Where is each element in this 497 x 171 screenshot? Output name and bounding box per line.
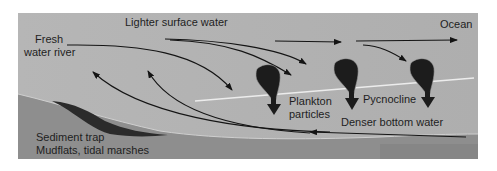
label-ocean: Ocean [440, 18, 472, 30]
label-plankton: Plankton [289, 95, 332, 107]
label-water-river: water river [24, 46, 75, 58]
label-mudflats-tidal-marshes: Mudflats, tidal marshes [36, 144, 149, 156]
label-fresh: Fresh [35, 33, 63, 45]
label-particles: particles [289, 108, 330, 120]
label-denser-bottom-water: Denser bottom water [341, 116, 443, 128]
label-pycnocline: Pycnocline [363, 93, 416, 105]
estuary-circulation-diagram: Lighter surface water Fresh water river … [0, 0, 497, 171]
label-lighter-surface-water: Lighter surface water [125, 16, 228, 28]
seabed-deep [380, 144, 478, 159]
label-sediment-trap: Sediment trap [36, 131, 104, 143]
